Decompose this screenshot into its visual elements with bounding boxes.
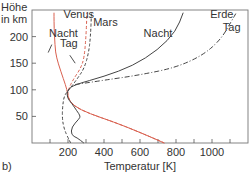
annotation-mars: Mars	[93, 16, 118, 28]
y-tick-label: 200	[10, 31, 28, 43]
arrow-tag	[70, 55, 75, 63]
annotations: VenusMarsNachtTagNachtErdeTag	[48, 8, 240, 63]
x-tick-label: 400	[95, 146, 113, 158]
annotation-tag: Tag	[223, 21, 241, 33]
y-tick-label: 100	[10, 84, 28, 96]
x-tick-label: 800	[167, 146, 185, 158]
arrow-nacht	[48, 45, 52, 53]
annotation-erde: Erde	[210, 8, 233, 20]
annotation-tag: Tag	[60, 37, 78, 49]
annotation-nacht: Nacht	[144, 27, 173, 39]
x-tick-label: 600	[131, 146, 149, 158]
y-axis-label-line2: in km	[1, 13, 27, 25]
x-tick-label: 200	[59, 146, 77, 158]
x-axis-label: Temperatur [K]	[104, 160, 176, 172]
axis-ticks: 200400600800100050100150200	[10, 31, 230, 158]
panel-label: b)	[2, 160, 12, 172]
y-tick-label: 150	[10, 57, 28, 69]
x-tick-label: 1000	[200, 146, 224, 158]
annotation-venus: Venus	[64, 8, 95, 20]
y-tick-label: 50	[16, 110, 28, 122]
temperature-altitude-chart: 200400600800100050100150200 VenusMarsNac…	[0, 0, 252, 175]
y-axis-label-line1: Höhe	[1, 1, 27, 13]
